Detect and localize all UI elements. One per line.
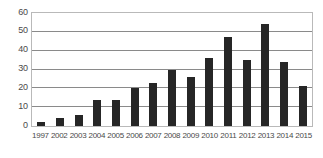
y-tick-label: 50 bbox=[0, 26, 28, 35]
x-axis: 1997200220032004200520062007200820092010… bbox=[31, 131, 313, 141]
x-tick-label: 2008 bbox=[163, 131, 182, 141]
bar bbox=[299, 86, 307, 126]
y-tick-label: 60 bbox=[0, 8, 28, 17]
bar bbox=[149, 83, 157, 126]
bar bbox=[37, 122, 45, 126]
y-tick-label: 40 bbox=[0, 45, 28, 54]
bar-slot bbox=[293, 13, 312, 126]
bar-slot bbox=[275, 13, 294, 126]
bar bbox=[93, 100, 101, 126]
plot-area bbox=[31, 12, 313, 127]
y-tick-label: 0 bbox=[0, 121, 28, 130]
x-tick-label: 2014 bbox=[275, 131, 294, 141]
y-axis: 0102030405060 bbox=[0, 0, 28, 140]
x-tick-label: 2004 bbox=[87, 131, 106, 141]
x-tick-label: 2010 bbox=[200, 131, 219, 141]
bar-slot bbox=[107, 13, 126, 126]
bar bbox=[187, 77, 195, 126]
x-tick-label: 2003 bbox=[69, 131, 88, 141]
bar bbox=[243, 60, 251, 126]
bar-slot bbox=[219, 13, 238, 126]
bar bbox=[56, 118, 64, 126]
bar-slot bbox=[69, 13, 88, 126]
bar bbox=[224, 37, 232, 126]
bars-layer bbox=[32, 13, 312, 126]
bar-slot bbox=[51, 13, 70, 126]
bar-slot bbox=[88, 13, 107, 126]
bar bbox=[112, 100, 120, 126]
x-tick-label: 2005 bbox=[106, 131, 125, 141]
x-tick-label: 2013 bbox=[257, 131, 276, 141]
bar-slot bbox=[256, 13, 275, 126]
bar-slot bbox=[237, 13, 256, 126]
bar bbox=[280, 62, 288, 126]
x-tick-label: 2009 bbox=[181, 131, 200, 141]
bar-slot bbox=[200, 13, 219, 126]
bar-slot bbox=[163, 13, 182, 126]
bar bbox=[205, 58, 213, 126]
bar bbox=[168, 70, 176, 127]
y-tick-label: 30 bbox=[0, 64, 28, 73]
y-tick-label: 10 bbox=[0, 102, 28, 111]
x-tick-label: 2002 bbox=[50, 131, 69, 141]
x-tick-label: 1997 bbox=[31, 131, 50, 141]
y-tick-label: 20 bbox=[0, 83, 28, 92]
bar-slot bbox=[125, 13, 144, 126]
x-tick-label: 2015 bbox=[294, 131, 313, 141]
bar bbox=[261, 24, 269, 126]
bar-chart: 0102030405060 19972002200320042005200620… bbox=[0, 0, 323, 158]
x-tick-label: 2006 bbox=[125, 131, 144, 141]
bar bbox=[75, 115, 83, 126]
bar-slot bbox=[32, 13, 51, 126]
bar-slot bbox=[181, 13, 200, 126]
x-tick-label: 2012 bbox=[238, 131, 257, 141]
x-tick-label: 2007 bbox=[144, 131, 163, 141]
x-tick-label: 2011 bbox=[219, 131, 238, 141]
bar bbox=[131, 88, 139, 126]
bar-slot bbox=[144, 13, 163, 126]
